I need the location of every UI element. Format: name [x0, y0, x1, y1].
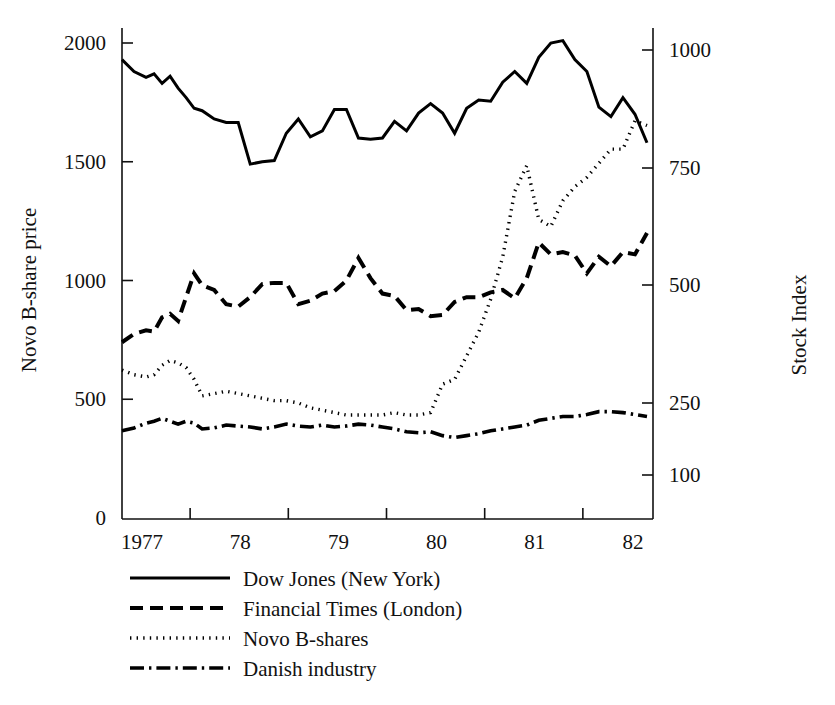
y-right-tick-label: 100 [669, 463, 701, 487]
right-axis: 1002505007501000 [642, 28, 711, 519]
y-axis-right-title: Stock Index [787, 274, 811, 375]
series-line-novo-b-shares [122, 121, 647, 415]
y-axis-left-title: Novo B-share price [17, 208, 41, 372]
chart-legend: Dow Jones (New York)Financial Times (Lon… [130, 567, 462, 681]
y-right-tick-label: 1000 [669, 38, 711, 62]
x-tick-label: 79 [328, 530, 349, 554]
chart-figure: 0500100015002000 1002505007501000 197778… [0, 0, 835, 705]
x-axis: 19777879808182 [121, 508, 653, 554]
x-tick-label: 78 [230, 530, 251, 554]
legend-label: Danish industry [243, 657, 377, 681]
x-tick-label: 80 [426, 530, 447, 554]
legend-label: Dow Jones (New York) [243, 567, 440, 591]
x-tick-label: 81 [524, 530, 545, 554]
left-axis: 0500100015002000 [64, 28, 133, 530]
y-left-tick-label: 500 [75, 387, 107, 411]
y-right-tick-label: 500 [669, 273, 701, 297]
series-layer [122, 41, 647, 438]
x-tick-label: 1977 [121, 530, 163, 554]
series-line-dow-jones-new-york [122, 41, 647, 165]
legend-label: Novo B-shares [243, 627, 368, 651]
legend-label: Financial Times (London) [243, 597, 462, 621]
y-left-tick-label: 2000 [64, 31, 106, 55]
y-left-tick-label: 1000 [64, 269, 106, 293]
y-left-tick-label: 0 [96, 506, 107, 530]
y-right-tick-label: 250 [669, 391, 701, 415]
stock-index-line-chart: 0500100015002000 1002505007501000 197778… [0, 0, 835, 705]
series-line-financial-times-london [122, 233, 647, 342]
y-right-tick-label: 750 [669, 156, 701, 180]
x-tick-label: 82 [622, 530, 643, 554]
y-left-tick-label: 1500 [64, 150, 106, 174]
